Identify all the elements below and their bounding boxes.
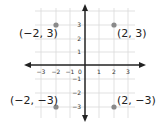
svg-text:−2: −2 [72,89,81,96]
label-p1: (−2, 3) [19,27,58,40]
label-p2: (2, 3) [117,27,147,40]
label-p3: (−2, −3) [10,94,58,107]
svg-text:0: 0 [78,68,82,75]
svg-text:1: 1 [77,48,81,55]
svg-text:−2: −2 [52,68,61,75]
x-tick-labels: −3 −2 −1 0 1 2 3 [37,68,131,75]
point-2-3 [111,22,116,27]
svg-text:1: 1 [97,68,101,75]
coordinate-plane: −3 −2 −1 0 1 2 3 3 2 1 −1 −2 −3 (−2, 3) … [0,0,161,126]
svg-text:3: 3 [126,68,130,75]
svg-text:−1: −1 [72,75,81,82]
arrow-right-icon [139,62,146,68]
y-axis [82,4,88,122]
arrow-up-icon [82,4,88,11]
svg-text:2: 2 [77,35,81,42]
svg-text:−3: −3 [72,103,81,110]
svg-text:−3: −3 [37,68,46,75]
svg-text:3: 3 [77,21,81,28]
arrow-down-icon [82,115,88,122]
svg-text:−1: −1 [66,68,75,75]
label-p4: (2, −3) [117,94,156,107]
svg-text:2: 2 [112,68,116,75]
point-2-neg3 [111,104,116,109]
arrow-left-icon [24,62,31,68]
